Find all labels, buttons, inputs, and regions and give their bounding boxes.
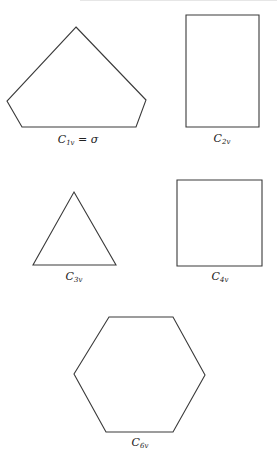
label-sub: 2v xyxy=(222,138,230,146)
symmetry-diagram xyxy=(0,0,277,453)
label-c3v: C3v xyxy=(66,271,83,284)
label-c4v: C4v xyxy=(212,271,229,284)
rectangle-shape xyxy=(186,15,259,127)
pentagon-shape xyxy=(7,27,146,127)
square-shape xyxy=(177,180,262,266)
label-sub: 1v xyxy=(66,139,74,147)
label-suffix: = σ xyxy=(75,133,99,146)
triangle-shape xyxy=(33,192,116,265)
label-c6v: C6v xyxy=(132,437,149,450)
label-sub: 4v xyxy=(220,276,228,284)
label-sub: 3v xyxy=(74,276,82,284)
label-sub: 6v xyxy=(140,442,148,450)
hexagon-shape xyxy=(74,317,205,432)
label-c2v: C2v xyxy=(214,133,231,146)
label-c1v: C1v = σ xyxy=(58,134,99,147)
